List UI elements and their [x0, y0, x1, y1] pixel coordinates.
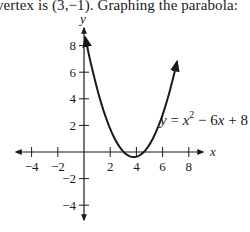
y-tick-label: 4 [70, 91, 77, 106]
equation-label: y = x2 − 6x + 8 [160, 112, 248, 129]
x-tick-label: 6 [159, 159, 166, 174]
y-tick-label: 6 [70, 65, 77, 80]
y-tick-label: 2 [70, 118, 77, 133]
y-tick-label: −2 [62, 171, 76, 186]
y-tick-label: 8 [70, 38, 77, 53]
y-tick-label: −4 [62, 198, 76, 213]
x-tick-label: −4 [25, 159, 39, 174]
x-tick-label: 4 [133, 159, 140, 174]
x-axis-label: x [209, 144, 216, 159]
x-tick-label: 2 [107, 159, 114, 174]
x-tick-label: 8 [186, 159, 193, 174]
y-axis-label: y [78, 11, 86, 26]
parabola-curve [85, 38, 177, 158]
